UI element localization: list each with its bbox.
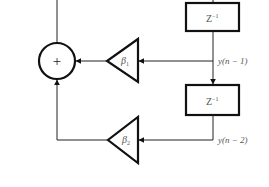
signal-label-y-n-1: y(n − 1) xyxy=(217,56,248,66)
delay1-exponent: −1 xyxy=(212,13,218,19)
delay2-exponent: −1 xyxy=(212,96,218,102)
beta2-subscript: 2 xyxy=(127,140,130,146)
y-n-2-to-beta2-wire xyxy=(139,115,213,140)
beta1-subscript: 1 xyxy=(126,61,129,67)
gain-block-beta2: β2 xyxy=(108,117,138,163)
signal-label-y-n-2: y(n − 2) xyxy=(217,135,248,145)
delay-block-1: Z−1 xyxy=(186,3,239,31)
adder-node: + xyxy=(39,43,75,79)
beta2-to-adder-wire xyxy=(57,80,108,140)
gain-block-beta1: β1 xyxy=(107,39,138,82)
block-diagram: + Z−1 y(n − 1) β1 Z−1 y(n − 2) β2 xyxy=(0,0,269,187)
delay-block-2: Z−1 xyxy=(186,85,239,115)
plus-icon: + xyxy=(53,53,61,69)
